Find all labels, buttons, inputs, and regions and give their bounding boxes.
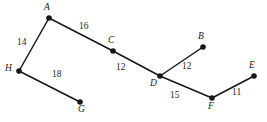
vertex-layer xyxy=(16,15,257,105)
graph-vertex-D xyxy=(157,73,163,79)
vertex-label-C: C xyxy=(108,36,114,46)
graph-edge-DF xyxy=(160,76,212,98)
edge-weight-CD: 12 xyxy=(116,63,126,73)
edge-weight-DB: 12 xyxy=(182,62,192,72)
vertex-label-E: E xyxy=(249,61,255,71)
edge-weight-AC: 16 xyxy=(79,22,89,32)
vertex-label-H: H xyxy=(5,64,12,74)
vertex-label-F: F xyxy=(208,102,214,112)
vertex-label-G: G xyxy=(78,105,85,115)
weighted-graph-figure: 14161212151118ABCDEFGH xyxy=(0,0,267,122)
edge-weight-AH: 14 xyxy=(17,38,27,48)
vertex-label-B: B xyxy=(198,32,204,42)
graph-vertex-A xyxy=(46,15,52,21)
edge-weight-FE: 11 xyxy=(232,88,241,98)
graph-vertex-H xyxy=(16,68,22,74)
edge-weight-DF: 15 xyxy=(170,91,180,101)
graph-canvas xyxy=(0,0,267,122)
edge-weight-HG: 18 xyxy=(52,70,62,80)
vertex-label-A: A xyxy=(44,3,50,13)
vertex-label-D: D xyxy=(150,79,157,89)
graph-edge-HG xyxy=(19,71,80,102)
graph-vertex-B xyxy=(200,44,206,50)
graph-vertex-E xyxy=(251,73,257,79)
edge-layer xyxy=(19,18,254,102)
graph-vertex-C xyxy=(110,48,116,54)
graph-vertex-F xyxy=(209,95,215,101)
